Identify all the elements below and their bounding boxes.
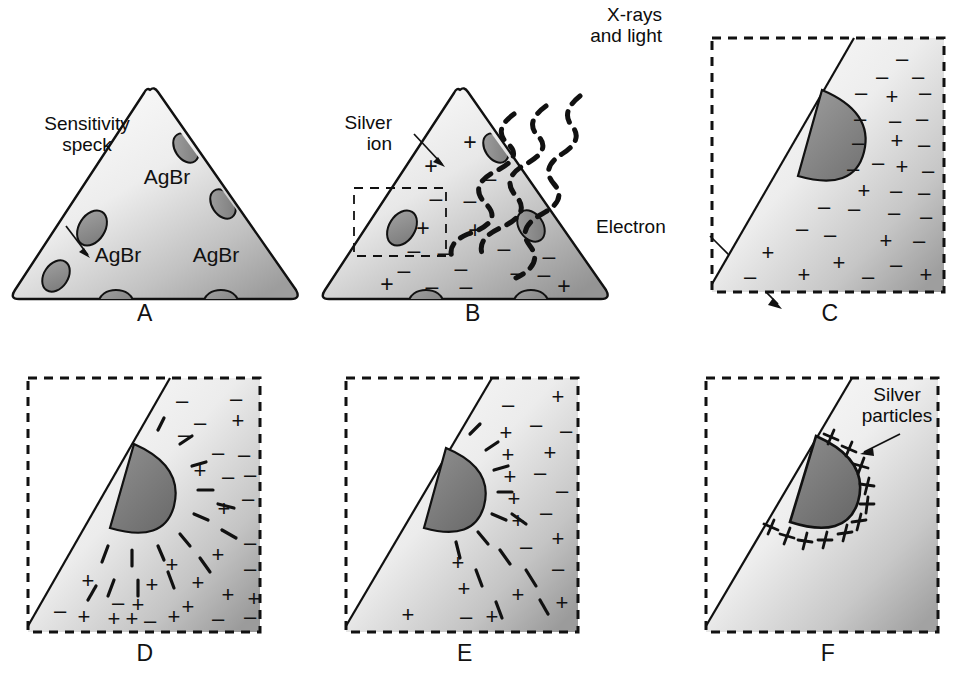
charge-plus: + — [463, 129, 476, 155]
charge-minus: – — [54, 598, 67, 623]
charge-plus: + — [557, 273, 570, 299]
label-xrays-and-light: X-rays and light — [496, 4, 662, 46]
panel-c: – – – – + – – – – – + – – – + – + – – – — [706, 34, 952, 300]
charge-minus: – — [744, 264, 757, 289]
charge-plus: + — [218, 496, 231, 521]
charge-minus: – — [560, 418, 573, 443]
charge-minus: – — [916, 106, 929, 131]
charge-minus: – — [244, 604, 257, 629]
charge-minus: – — [896, 46, 909, 71]
charge-minus: – — [552, 556, 565, 581]
charge-plus: + — [222, 582, 235, 607]
sensitivity-speck — [204, 290, 238, 314]
charge-plus: + — [192, 570, 205, 595]
charge-minus: – — [212, 606, 225, 631]
charge-plus: + — [126, 606, 139, 631]
agbr-label: AgBr — [144, 165, 191, 188]
charge-plus: + — [762, 240, 775, 265]
charge-minus: – — [144, 608, 157, 633]
charge-plus: + — [108, 606, 121, 631]
charge-plus: + — [380, 271, 393, 297]
label-silver-ion: Silver ion — [300, 112, 392, 154]
charge-minus: – — [222, 464, 235, 489]
charge-minus: – — [212, 440, 225, 465]
charge-minus: – — [502, 392, 515, 417]
charge-plus: + — [552, 384, 565, 409]
charge-plus: + — [556, 590, 569, 615]
charge-plus: + — [168, 604, 181, 629]
charge-plus: + — [886, 84, 899, 109]
charge-minus: – — [244, 530, 257, 555]
charge-plus: + — [182, 594, 195, 619]
charge-plus: + — [798, 262, 811, 287]
charge-plus: + — [452, 550, 465, 575]
charge-minus: – — [244, 556, 257, 581]
charge-minus: – — [244, 462, 257, 487]
charge-plus: + — [512, 508, 525, 533]
charge-minus: – — [890, 252, 903, 277]
panel-d: – – – + – – – – – + – + – + – + + + + + — [22, 374, 268, 640]
charge-minus: – — [534, 460, 547, 485]
charge-minus: – — [556, 478, 569, 503]
latent-image-formation-figure: AgBr AgBr AgBr Sensitivity speck A — [0, 0, 967, 680]
charge-minus: – — [408, 237, 421, 263]
charge-minus: – — [872, 150, 885, 175]
charge-minus: – — [888, 200, 901, 225]
charge-minus: – — [194, 410, 207, 435]
charge-minus: – — [818, 194, 831, 219]
charge-minus: – — [918, 132, 931, 157]
charge-plus: + — [486, 604, 499, 629]
charge-minus: – — [426, 273, 439, 299]
panel-letter-b: B — [443, 300, 503, 327]
charge-plus: + — [512, 582, 525, 607]
charge-minus: – — [464, 187, 477, 213]
charge-plus: + — [896, 154, 909, 179]
charge-minus: – — [538, 261, 551, 287]
charge-minus: – — [498, 235, 511, 261]
charge-plus: + — [166, 552, 179, 577]
agbr-label: AgBr — [193, 243, 240, 266]
charge-minus: – — [920, 204, 933, 229]
charge-plus: + — [891, 128, 904, 153]
charge-plus: + — [78, 604, 91, 629]
charge-minus: – — [460, 604, 473, 629]
charge-plus: + — [146, 572, 159, 597]
panel-letter-d: D — [115, 640, 175, 667]
charge-minus: – — [824, 222, 837, 247]
charge-minus: – — [854, 106, 867, 131]
charge-plus: + — [232, 408, 245, 433]
panel-e: – + – – + + + + – + – + – + – + – + + + — [340, 374, 586, 640]
charge-plus: + — [402, 602, 415, 627]
charge-minus: – — [520, 534, 533, 559]
charge-minus: – — [852, 130, 865, 155]
charge-plus: + — [833, 250, 846, 275]
panel-letter-a: A — [115, 300, 175, 327]
agbr-label: AgBr — [95, 243, 142, 266]
charge-minus: – — [176, 388, 189, 413]
charge-minus: – — [855, 80, 868, 105]
charge-minus: – — [862, 264, 875, 289]
charge-plus: + — [880, 228, 893, 253]
charge-plus: + — [212, 542, 225, 567]
charge-plus: + — [194, 458, 207, 483]
panel-letter-e: E — [435, 640, 495, 667]
sensitivity-speck — [514, 290, 548, 314]
charge-minus: – — [540, 500, 553, 525]
charge-minus: – — [848, 196, 861, 221]
label-sensitivity-speck: Sensitivity speck — [12, 113, 162, 155]
charge-minus: – — [913, 228, 926, 253]
charge-plus: + — [920, 262, 933, 287]
charge-minus: – — [796, 216, 809, 241]
charge-minus: – — [530, 412, 543, 437]
label-silver-particles: Silver particles — [836, 384, 958, 426]
charge-minus: – — [242, 486, 255, 511]
panel-letter-f: F — [798, 640, 858, 667]
charge-minus: – — [178, 422, 191, 447]
charge-plus: + — [82, 568, 95, 593]
charge-plus: + — [458, 576, 471, 601]
panel-letter-c: C — [800, 300, 860, 327]
charge-minus: – — [919, 80, 932, 105]
charge-plus: + — [552, 526, 565, 551]
charge-minus: – — [460, 273, 473, 299]
charge-minus: – — [918, 180, 931, 205]
